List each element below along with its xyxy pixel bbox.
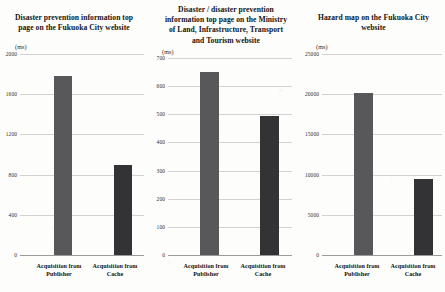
chart-2-gridline-600 xyxy=(168,86,292,87)
chart-3-bar-cache xyxy=(414,179,433,255)
chart-3-gridline-10000 xyxy=(322,175,442,176)
chart-3-category-label-cache: Acquisition fromCache xyxy=(383,262,443,279)
chart-3-ytick-10000: 10000 xyxy=(300,172,319,178)
chart-2-bar-cache xyxy=(260,116,279,255)
chart-2-ytick-100: 100 xyxy=(146,224,165,230)
chart-2-ytick-0: 0 xyxy=(146,252,165,258)
chart-3-gridline-20000 xyxy=(322,94,442,95)
chart-2-gridline-700 xyxy=(168,58,292,59)
chart-1-gridline-0 xyxy=(20,255,144,256)
chart-3-category-label-publisher: Acquisition fromPublisher xyxy=(326,262,388,279)
chart-1-gridline-1200 xyxy=(20,134,144,135)
chart-1-ytick-2000: 2000 xyxy=(0,51,17,57)
chart-1-bar-cache xyxy=(114,165,132,255)
chart-1-gridline-2000 xyxy=(20,54,144,55)
chart-2-ytick-400: 400 xyxy=(146,139,165,145)
chart-2-category-label-cache: Acquisition fromCache xyxy=(232,262,294,279)
chart-3-plot-area: 0500010000150002000025000 Acquisition fr… xyxy=(298,0,445,292)
chart-1-category-label-cache: Acquisition fromCache xyxy=(84,262,146,279)
chart-panel-3: Hazard map on the Fukuoka City website (… xyxy=(298,0,445,292)
figure-container: Disaster prevention information top page… xyxy=(0,0,445,292)
chart-1-ytick-800: 800 xyxy=(0,172,17,178)
chart-2-category-label-publisher: Acquisition fromPublisher xyxy=(174,262,238,279)
chart-2-ytick-500: 500 xyxy=(146,111,165,117)
chart-2-gridline-0 xyxy=(168,255,292,256)
chart-3-ytick-0: 0 xyxy=(300,252,319,258)
chart-1-ytick-1200: 1200 xyxy=(0,131,17,137)
chart-2-plot-area: 0100200300400500600700 Acquisition fromP… xyxy=(148,0,298,292)
chart-3-gridline-0 xyxy=(322,255,442,256)
chart-3-ytick-25000: 25000 xyxy=(300,51,319,57)
chart-1-plot-area: 0400800120016002000 Acquisition fromPubl… xyxy=(0,0,148,292)
chart-panel-2: Disaster / disaster prevention informati… xyxy=(148,0,298,292)
chart-1-ytick-400: 400 xyxy=(0,212,17,218)
chart-2-ytick-300: 300 xyxy=(146,168,165,174)
chart-2-ytick-200: 200 xyxy=(146,196,165,202)
chart-3-gridline-25000 xyxy=(322,54,442,55)
chart-2-ytick-600: 600 xyxy=(146,83,165,89)
chart-1-ytick-0: 0 xyxy=(0,252,17,258)
chart-1-bar-publisher xyxy=(54,76,72,255)
chart-3-gridline-15000 xyxy=(322,134,442,135)
chart-3-bar-publisher xyxy=(354,93,373,255)
chart-2-ytick-700: 700 xyxy=(146,55,165,61)
chart-3-ytick-5000: 5000 xyxy=(300,212,319,218)
chart-1-ytick-1600: 1600 xyxy=(0,91,17,97)
chart-1-gridline-1600 xyxy=(20,94,144,95)
chart-2-bar-publisher xyxy=(200,72,219,255)
chart-3-ytick-20000: 20000 xyxy=(300,91,319,97)
chart-1-category-label-publisher: Acquisition fromPublisher xyxy=(28,262,90,279)
chart-3-ytick-15000: 15000 xyxy=(300,131,319,137)
chart-panel-1: Disaster prevention information top page… xyxy=(0,0,148,292)
